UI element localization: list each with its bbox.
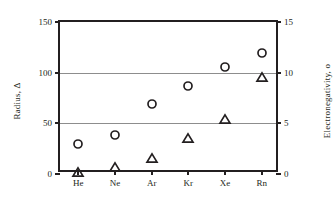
- y-axis-right-title: Electronegativity, o: [322, 26, 332, 176]
- circle-marker: [146, 99, 157, 110]
- y-axis-right-tick: [276, 72, 281, 74]
- y-axis-right-ticklabel: 0: [284, 169, 289, 179]
- x-axis-tick: [224, 170, 226, 175]
- x-axis-ticklabel: He: [73, 178, 84, 188]
- x-axis-tick: [261, 170, 263, 175]
- x-axis-tick: [187, 170, 189, 175]
- gridline: [60, 73, 276, 74]
- y-axis-right-tick: [276, 122, 281, 124]
- y-axis-left-tick: [55, 173, 60, 175]
- circle-marker: [73, 138, 84, 149]
- circle-marker: [110, 130, 121, 141]
- triangle-marker: [146, 152, 158, 163]
- y-axis-right-ticklabel: 5: [284, 118, 289, 128]
- triangle-marker: [72, 166, 84, 177]
- circle-marker: [220, 61, 231, 72]
- gridline: [60, 123, 276, 124]
- x-axis-ticklabel: Ne: [110, 178, 121, 188]
- chart-figure: Radius, Δ Electronegativity, o 050100150…: [0, 0, 335, 210]
- y-axis-left-ticklabel: 150: [39, 17, 53, 27]
- triangle-marker: [256, 71, 268, 82]
- y-axis-left-ticklabel: 50: [43, 118, 52, 128]
- x-axis-ticklabel: Rn: [256, 178, 267, 188]
- triangle-marker: [219, 114, 231, 125]
- x-axis-ticklabel: Kr: [184, 178, 194, 188]
- y-axis-right-tick: [276, 173, 281, 175]
- y-axis-right-ticklabel: 15: [284, 17, 293, 27]
- x-axis-ticklabel: Ar: [147, 178, 157, 188]
- plot-area: 050100150 051015 HeNeArKrXeRn: [58, 20, 278, 172]
- triangle-marker: [182, 132, 194, 143]
- circle-marker: [183, 80, 194, 91]
- y-axis-left-tick: [55, 21, 60, 23]
- y-axis-right-tick: [276, 21, 281, 23]
- circle-marker: [256, 48, 267, 59]
- triangle-marker: [109, 161, 121, 172]
- x-axis-ticklabel: Xe: [220, 178, 231, 188]
- y-axis-left-title: Radius, Δ: [12, 46, 22, 156]
- y-axis-right-ticklabel: 10: [284, 68, 293, 78]
- y-axis-left-tick: [55, 122, 60, 124]
- y-axis-left-tick: [55, 72, 60, 74]
- y-axis-left-ticklabel: 100: [39, 68, 53, 78]
- x-axis-tick: [151, 170, 153, 175]
- y-axis-left-ticklabel: 0: [48, 169, 53, 179]
